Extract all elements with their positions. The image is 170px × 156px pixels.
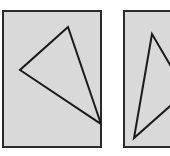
panel-left — [3, 11, 101, 147]
panel-right — [124, 11, 170, 147]
figure-canvas — [0, 0, 170, 156]
figure-root — [0, 0, 170, 156]
